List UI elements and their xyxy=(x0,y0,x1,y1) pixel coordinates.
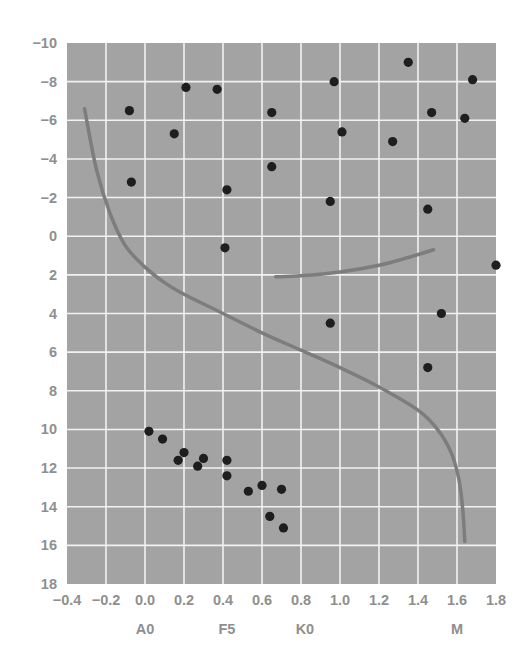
star-point xyxy=(199,454,208,463)
x-tick-label: 1.8 xyxy=(486,592,506,608)
y-tick-label: 0 xyxy=(49,228,57,244)
star-point xyxy=(222,456,231,465)
star-point xyxy=(170,129,179,138)
star-point xyxy=(127,178,136,187)
star-point xyxy=(330,77,339,86)
star-point xyxy=(174,456,183,465)
x-tick-label: 0.0 xyxy=(135,592,155,608)
y-tick-label: −2 xyxy=(40,190,57,206)
x-tick-label: −0.2 xyxy=(92,592,121,608)
x-tick-label: 1.0 xyxy=(330,592,350,608)
y-tick-label: 8 xyxy=(49,383,57,399)
star-point xyxy=(222,471,231,480)
star-point xyxy=(423,205,432,214)
x-tick-label: 0.4 xyxy=(213,592,233,608)
x-tick-label: −0.4 xyxy=(53,592,82,608)
y-tick-label: 2 xyxy=(49,267,57,283)
star-point xyxy=(125,106,134,115)
x-tick-label: 1.4 xyxy=(408,592,428,608)
star-point xyxy=(423,363,432,372)
star-point xyxy=(244,487,253,496)
y-tick-label: 12 xyxy=(41,460,57,476)
x-tick-label: 0.8 xyxy=(291,592,311,608)
star-point xyxy=(337,127,346,136)
spectral-class-label: K0 xyxy=(296,621,315,637)
x-tick-label: 0.2 xyxy=(174,592,194,608)
star-point xyxy=(213,85,222,94)
y-tick-label: 16 xyxy=(41,537,57,553)
y-tick-label: 4 xyxy=(49,306,57,322)
star-point xyxy=(491,261,500,270)
y-tick-label: 10 xyxy=(41,421,57,437)
star-point xyxy=(267,108,276,117)
y-tick-label: 6 xyxy=(49,344,57,360)
y-tick-label: −6 xyxy=(40,112,57,128)
star-point xyxy=(181,83,190,92)
star-point xyxy=(193,462,202,471)
x-tick-label: 1.2 xyxy=(369,592,389,608)
star-point xyxy=(468,75,477,84)
star-point xyxy=(326,197,335,206)
star-point xyxy=(267,162,276,171)
star-point xyxy=(277,485,286,494)
x-tick-label: 1.6 xyxy=(447,592,467,608)
star-point xyxy=(257,481,266,490)
spectral-class-label: A0 xyxy=(136,621,155,637)
star-point xyxy=(179,448,188,457)
x-tick-label: 0.6 xyxy=(252,592,272,608)
y-axis-tick-labels: −10−8−6−4−2024681012141618 xyxy=(32,35,57,592)
star-point xyxy=(144,427,153,436)
star-point xyxy=(326,319,335,328)
star-point xyxy=(437,309,446,318)
spectral-class-label: F5 xyxy=(218,621,235,637)
star-point xyxy=(279,523,288,532)
y-tick-label: 18 xyxy=(41,576,57,592)
spectral-class-label: M xyxy=(451,621,463,637)
star-point xyxy=(460,114,469,123)
y-tick-label: −8 xyxy=(40,74,57,90)
hr-diagram-chart: −10−8−6−4−2024681012141618 −0.4−0.20.00.… xyxy=(0,0,528,667)
star-point xyxy=(220,243,229,252)
y-tick-label: −4 xyxy=(40,151,57,167)
star-point xyxy=(427,108,436,117)
y-tick-label: −10 xyxy=(32,35,57,51)
star-point xyxy=(404,58,413,67)
y-tick-label: 14 xyxy=(41,499,57,515)
x-axis-tick-labels: −0.4−0.20.00.20.40.60.81.01.21.41.61.8 xyxy=(53,592,506,608)
spectral-class-labels: A0F5K0M xyxy=(136,621,463,637)
star-point xyxy=(388,137,397,146)
star-point xyxy=(158,434,167,443)
star-point xyxy=(265,512,274,521)
star-point xyxy=(222,185,231,194)
